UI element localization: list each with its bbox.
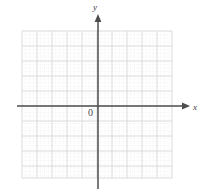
- y-axis-arrowhead: [95, 14, 102, 22]
- origin-label: 0: [88, 108, 93, 118]
- figure-canvas: y x 0: [0, 0, 207, 194]
- y-axis-label: y: [93, 3, 97, 12]
- x-axis-arrowhead: [182, 103, 190, 110]
- x-axis-label: x: [193, 103, 197, 112]
- grid-group: [22, 31, 172, 178]
- coordinate-plane-svg: [0, 0, 207, 194]
